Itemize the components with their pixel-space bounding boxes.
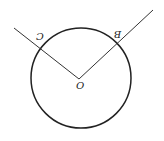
label-c: C (36, 31, 44, 41)
label-b: B (114, 29, 121, 39)
ray-ob (79, 10, 153, 79)
circle (31, 28, 131, 128)
label-o: O (76, 80, 84, 90)
circle-diagram (0, 0, 164, 141)
ray-oc (14, 28, 79, 79)
